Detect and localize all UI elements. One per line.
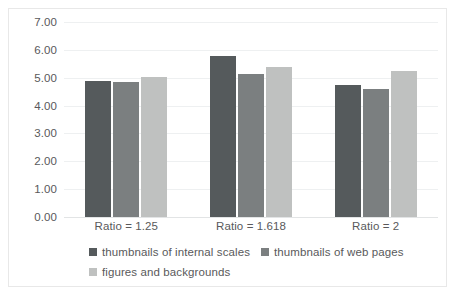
legend-swatch-icon [261, 248, 269, 256]
plot-area: 0.001.002.003.004.005.006.007.00 [64, 22, 438, 217]
category-label: Ratio = 2 [352, 220, 399, 232]
y-axis-tick-label: 4.00 [34, 100, 57, 112]
legend-swatch-icon [89, 268, 97, 276]
bar[interactable] [238, 74, 264, 217]
bar[interactable] [210, 56, 236, 217]
category-label: Ratio = 1.25 [95, 220, 159, 232]
legend-item[interactable]: thumbnails of web pages [261, 246, 404, 258]
chart-container: 0.001.002.003.004.005.006.007.00 Ratio =… [8, 8, 447, 287]
y-axis-tick-label: 6.00 [34, 44, 57, 56]
bar-group [313, 22, 438, 217]
bar[interactable] [113, 82, 139, 217]
bar[interactable] [141, 77, 167, 217]
y-axis-tick-label: 0.00 [34, 211, 57, 223]
bar-group [64, 22, 189, 217]
y-axis-tick-label: 2.00 [34, 155, 57, 167]
legend-label: thumbnails of internal scales [102, 246, 250, 258]
legend-label: thumbnails of web pages [274, 246, 404, 258]
legend-item[interactable]: figures and backgrounds [89, 266, 230, 278]
y-axis-tick-label: 1.00 [34, 183, 57, 195]
y-axis-tick-label: 3.00 [34, 127, 57, 139]
y-axis-tick-label: 5.00 [34, 72, 57, 84]
bar[interactable] [335, 85, 361, 217]
chart-legend: thumbnails of internal scalesthumbnails … [64, 242, 438, 282]
bar-group [189, 22, 314, 217]
bar[interactable] [391, 71, 417, 217]
legend-row-2: figures and backgrounds [64, 262, 438, 282]
bar[interactable] [85, 81, 111, 218]
legend-swatch-icon [89, 248, 97, 256]
bar[interactable] [266, 67, 292, 217]
category-label: Ratio = 1.618 [216, 220, 286, 232]
legend-label: figures and backgrounds [102, 266, 230, 278]
legend-row-1: thumbnails of internal scalesthumbnails … [64, 242, 438, 262]
bar[interactable] [363, 89, 389, 217]
legend-item[interactable]: thumbnails of internal scales [89, 246, 250, 258]
category-axis: Ratio = 1.25Ratio = 1.618Ratio = 2 [64, 220, 438, 238]
gridline [64, 217, 438, 218]
y-axis-tick-label: 7.00 [34, 16, 57, 28]
